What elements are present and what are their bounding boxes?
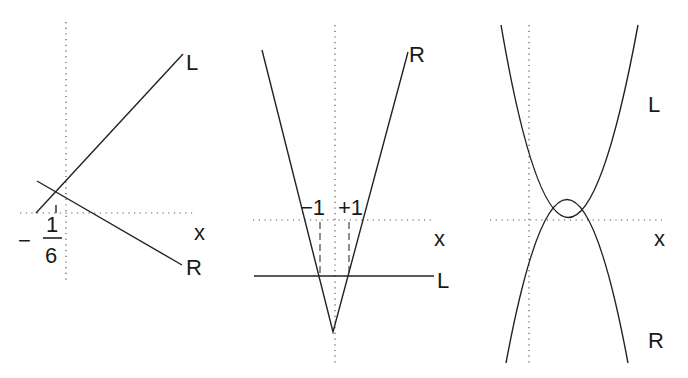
left-panel: L R x − 1 6	[18, 22, 205, 280]
middle-label-R: R	[409, 42, 425, 67]
right-label-L: L	[648, 92, 660, 117]
right-panel: L R x	[490, 25, 665, 365]
right-label-x: x	[654, 226, 665, 251]
right-label-R: R	[648, 328, 664, 353]
middle-panel: R L x −1 +1	[253, 25, 449, 365]
left-label-frac-num: 1	[46, 212, 58, 237]
middle-label-L: L	[437, 268, 449, 293]
left-line-L	[36, 54, 183, 213]
right-curve-L	[501, 25, 638, 218]
left-label-R: R	[186, 255, 202, 280]
left-label-x: x	[194, 220, 205, 245]
right-curve-R	[506, 200, 628, 364]
diagram-svg: L R x − 1 6 R L x −1 +1 L R x	[0, 0, 688, 378]
left-label-L: L	[186, 50, 198, 75]
left-label-minus: −	[18, 228, 31, 253]
diagram-canvas: L R x − 1 6 R L x −1 +1 L R x	[0, 0, 688, 378]
left-label-frac-den: 6	[45, 243, 57, 268]
middle-label-x: x	[434, 226, 445, 251]
middle-label-pos-one: +1	[338, 195, 363, 220]
middle-label-neg-one: −1	[300, 195, 325, 220]
left-line-R	[37, 181, 182, 265]
